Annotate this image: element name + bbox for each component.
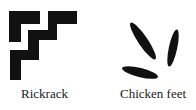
chicken-feet-caption: Chicken feet	[120, 87, 186, 100]
rickrack-figure: Rickrack	[0, 0, 98, 110]
rickrack-caption: Rickrack	[21, 87, 68, 100]
chicken-feet-figure: Chicken feet	[98, 0, 196, 110]
